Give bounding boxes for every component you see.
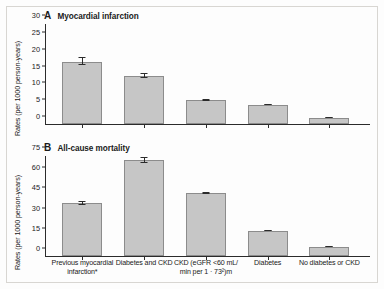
- bar-a-5: [309, 118, 349, 124]
- y-tick-label: 45: [27, 183, 40, 192]
- error-bar-cap-top: [79, 57, 86, 58]
- y-tick-mark: [42, 167, 45, 168]
- x-axis-label-line1: No diabetes or CKD: [287, 259, 371, 268]
- bar-a-3: [186, 100, 226, 124]
- y-tick-5: 5: [27, 95, 45, 104]
- bar-b-2: [124, 160, 164, 256]
- y-tick-label: 15: [27, 223, 40, 232]
- panel-a-title: Myocardial infarction: [57, 12, 138, 21]
- error-bar: [326, 117, 333, 119]
- x-axis-label-5: No diabetes or CKD: [287, 259, 371, 268]
- y-tick-mark: [42, 116, 45, 117]
- error-bar-cap-bottom: [79, 64, 86, 65]
- bar-b-4: [248, 231, 288, 256]
- x-axis-label-line2: infarction*: [40, 268, 124, 277]
- error-bar: [264, 104, 271, 106]
- error-bar-cap-bottom: [326, 246, 333, 247]
- panel-a-header: A Myocardial infarction: [44, 10, 139, 21]
- panel-a-plot-area: 051015202530: [45, 24, 370, 125]
- y-tick-mark: [42, 187, 45, 188]
- y-tick-mark: [42, 82, 45, 83]
- error-bar: [326, 246, 333, 248]
- y-tick-20: 20: [27, 44, 45, 53]
- y-tick-mark: [42, 147, 45, 148]
- error-bar-cap-bottom: [202, 193, 209, 194]
- y-tick-label: 75: [27, 143, 40, 152]
- panel-a-x-axis-line: [45, 124, 370, 125]
- panel-b-all-cause-mortality: B All-cause mortality Rates (per 1000 pe…: [0, 140, 384, 280]
- bar-group: [309, 155, 349, 256]
- bar-a-2: [124, 76, 164, 124]
- y-tick-label: 0: [27, 244, 40, 253]
- error-bar: [141, 73, 148, 78]
- error-bar-cap-top: [141, 73, 148, 74]
- bar-group: [186, 155, 226, 256]
- error-bar-cap-bottom: [202, 100, 209, 101]
- error-bar: [141, 157, 148, 163]
- panel-b-title: All-cause mortality: [57, 144, 129, 153]
- y-tick-25: 25: [27, 27, 45, 36]
- y-tick-mark: [42, 207, 45, 208]
- error-bar-cap-bottom: [141, 162, 148, 163]
- bar-b-5: [309, 247, 349, 256]
- y-tick-0: 0: [27, 244, 45, 253]
- bar-b-3: [186, 193, 226, 256]
- panel-b-y-axis-line: [45, 156, 46, 257]
- y-tick-75: 75: [27, 143, 45, 152]
- error-bar: [202, 192, 209, 194]
- y-tick-label: 0: [27, 112, 40, 121]
- y-tick-label: 25: [27, 27, 40, 36]
- y-tick-label: 60: [27, 163, 40, 172]
- panel-b-header: B All-cause mortality: [44, 142, 130, 153]
- error-bar: [79, 201, 86, 205]
- y-tick-10: 10: [27, 78, 45, 87]
- bar-group: [309, 23, 349, 124]
- y-tick-mark: [42, 248, 45, 249]
- y-tick-15: 15: [27, 223, 45, 232]
- panel-a-y-axis-label: Rates (per 1000 person-years): [13, 41, 22, 136]
- panel-b-y-axis-label: Rates (per 1000 person-years): [13, 175, 22, 270]
- x-axis-label-line2: min per 1 · 73²)m: [164, 268, 248, 277]
- y-tick-15: 15: [27, 61, 45, 70]
- y-tick-label: 30: [27, 203, 40, 212]
- bar-b-1: [62, 203, 102, 256]
- bar-group: [62, 23, 102, 124]
- y-tick-mark: [42, 65, 45, 66]
- bar-group: [62, 155, 102, 256]
- error-bar: [264, 230, 271, 232]
- error-bar-cap-bottom: [326, 117, 333, 118]
- panel-b-plot-area: 01530456075: [45, 156, 370, 257]
- bar-group: [248, 23, 288, 124]
- panel-a-myocardial-infarction: A Myocardial infarction Rates (per 1000 …: [0, 8, 384, 144]
- bar-a-1: [62, 62, 102, 124]
- panel-b-letter: B: [44, 142, 51, 153]
- bar-a-4: [248, 105, 288, 124]
- y-tick-45: 45: [27, 183, 45, 192]
- panel-a-y-axis-line: [45, 24, 46, 125]
- error-bar: [202, 99, 209, 101]
- y-tick-label: 15: [27, 61, 40, 70]
- y-tick-mark: [42, 15, 45, 16]
- error-bar: [79, 57, 86, 65]
- bar-group: [124, 23, 164, 124]
- y-tick-mark: [42, 99, 45, 100]
- y-tick-0: 0: [27, 112, 45, 121]
- error-bar-cap-bottom: [264, 230, 271, 231]
- error-bar-cap-bottom: [141, 77, 148, 78]
- error-bar-cap-top: [141, 157, 148, 158]
- y-tick-30: 30: [27, 203, 45, 212]
- y-tick-mark: [42, 48, 45, 49]
- error-bar-cap-bottom: [264, 104, 271, 105]
- panel-b-x-tick-labels: Previous myocardialinfarction*Diabetes a…: [45, 259, 370, 285]
- y-tick-label: 20: [27, 44, 40, 53]
- panel-b-x-axis-line: [45, 256, 370, 257]
- error-bar-cap-top: [79, 201, 86, 202]
- y-tick-label: 10: [27, 78, 40, 87]
- panel-a-letter: A: [44, 10, 51, 21]
- error-bar-cap-bottom: [79, 204, 86, 205]
- y-tick-30: 30: [27, 11, 45, 20]
- bar-group: [124, 155, 164, 256]
- y-tick-mark: [42, 227, 45, 228]
- figure-container: A Myocardial infarction Rates (per 1000 …: [0, 0, 384, 289]
- y-tick-label: 5: [27, 95, 40, 104]
